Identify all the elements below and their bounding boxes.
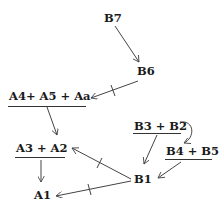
edge-b3b2-b1 (144, 135, 157, 164)
node-a4-a5-aa: A4+ A5 + Aa (9, 90, 91, 103)
node-a4-a5-aa-underline (8, 106, 86, 107)
node-a3-a2-underline (15, 157, 65, 158)
edge-b7-b6 (115, 26, 139, 62)
edge-b1-a3a2 (72, 148, 131, 179)
node-a3-a2: A3 + A2 (16, 142, 68, 155)
edge-a4a5aa-a3a2 (47, 107, 57, 135)
edges-layer (0, 0, 222, 215)
edge-b4b5-b1 (158, 162, 181, 178)
node-b1: B1 (134, 173, 152, 186)
edge-b1-a1 (56, 181, 131, 196)
node-b4-b5-underline (165, 159, 212, 160)
node-b6: B6 (137, 65, 155, 78)
node-b3-b2: B3 + B2 (134, 120, 187, 133)
diagram-canvas: B7 B6 A4+ A5 + Aa A3 + A2 A1 B3 + B2 B4 … (0, 0, 222, 215)
node-b7: B7 (104, 12, 122, 25)
node-b4-b5: B4 + B5 (166, 145, 219, 158)
node-a1: A1 (34, 189, 51, 202)
node-b3-b2-underline (133, 133, 181, 134)
